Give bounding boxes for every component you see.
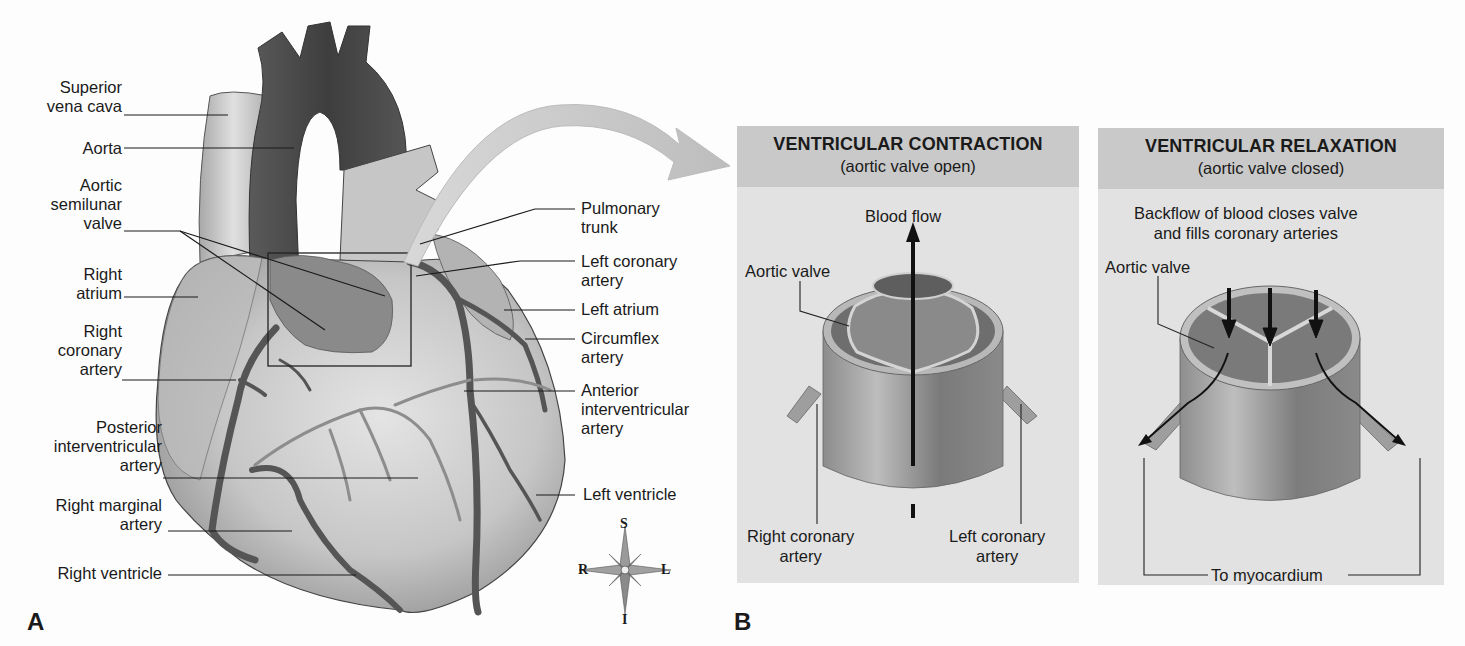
- aortic-valve-label: Aortic valve: [1105, 257, 1190, 277]
- figure-b-letter: B: [734, 608, 751, 636]
- label-line: semilunar: [50, 195, 122, 214]
- label-line: Left atrium: [581, 300, 659, 319]
- label-line: Posterior: [54, 418, 162, 437]
- label-superior-vena-cava: Superior vena cava: [47, 78, 122, 116]
- label-line: valve: [50, 214, 122, 233]
- closed-valve-illustration: [1098, 128, 1444, 585]
- label-pulmonary-trunk: Pulmonary trunk: [581, 199, 660, 237]
- label-left-ventricle: Left ventricle: [583, 485, 677, 504]
- compass-inferior: I: [622, 612, 627, 628]
- aortic-valve-label: Aortic valve: [745, 261, 830, 281]
- label-line: vena cava: [47, 97, 122, 116]
- label-left-coronary-artery: Left coronary artery: [581, 252, 677, 290]
- label-line: Right: [76, 265, 122, 284]
- label-left-atrium: Left atrium: [581, 300, 659, 319]
- label-circumflex-artery: Circumflex artery: [581, 329, 659, 367]
- right-coronary-tube: [787, 386, 821, 423]
- label-line: artery: [581, 419, 689, 438]
- label-line: coronary: [58, 341, 122, 360]
- label-right-marginal-artery: Right marginal artery: [56, 496, 162, 534]
- compass-rose: [579, 526, 671, 614]
- left-coronary-tube: [999, 386, 1037, 424]
- label-right-ventricle: Right ventricle: [57, 564, 162, 583]
- label-line: Left coronary: [581, 252, 677, 271]
- label-line: trunk: [581, 218, 660, 237]
- label-line: Aortic: [50, 176, 122, 195]
- compass-right: R: [578, 562, 588, 578]
- label-line: artery: [949, 546, 1045, 566]
- label-line: artery: [581, 271, 677, 290]
- label-aorta: Aorta: [83, 139, 122, 158]
- label-line: Right coronary: [747, 526, 854, 546]
- blood-flow-label: Blood flow: [865, 206, 941, 226]
- label-line: Backflow of blood closes valve: [1134, 203, 1358, 223]
- right-coronary-label: Right coronary artery: [747, 526, 854, 566]
- label-anterior-interventricular-artery: Anterior interventricular artery: [581, 381, 689, 438]
- label-aortic-semilunar-valve: Aortic semilunar valve: [50, 176, 122, 233]
- label-line: artery: [58, 360, 122, 379]
- label-line: artery: [56, 515, 162, 534]
- compass-left: L: [661, 562, 670, 578]
- label-line: Left ventricle: [583, 485, 677, 504]
- label-right-atrium: Right atrium: [76, 265, 122, 303]
- panel-ventricular-contraction: VENTRICULAR CONTRACTION (aortic valve op…: [737, 126, 1079, 583]
- label-line: Anterior: [581, 381, 689, 400]
- label-line: Pulmonary: [581, 199, 660, 218]
- label-right-coronary-artery: Right coronary artery: [58, 322, 122, 379]
- label-line: Left coronary: [949, 526, 1045, 546]
- label-line: artery: [747, 546, 854, 566]
- label-line: interventricular: [54, 437, 162, 456]
- label-line: Circumflex: [581, 329, 659, 348]
- to-myocardium-label: To myocardium: [1211, 565, 1323, 585]
- label-line: artery: [54, 456, 162, 475]
- label-line: interventricular: [581, 400, 689, 419]
- left-coronary-label: Left coronary artery: [949, 526, 1045, 566]
- panel-ventricular-relaxation: VENTRICULAR RELAXATION (aortic valve clo…: [1098, 128, 1444, 585]
- open-valve-illustration: [737, 126, 1079, 583]
- label-line: and fills coronary arteries: [1134, 223, 1358, 243]
- label-line: Right marginal: [56, 496, 162, 515]
- label-line: Right ventricle: [57, 564, 162, 583]
- label-line: Superior: [47, 78, 122, 97]
- backflow-description: Backflow of blood closes valve and fills…: [1134, 203, 1358, 243]
- label-line: atrium: [76, 284, 122, 303]
- label-line: Aorta: [83, 139, 122, 158]
- label-line: artery: [581, 348, 659, 367]
- label-posterior-interventricular-artery: Posterior interventricular artery: [54, 418, 162, 475]
- figure-a-letter: A: [27, 608, 44, 636]
- compass-superior: S: [620, 516, 628, 532]
- label-line: Right: [58, 322, 122, 341]
